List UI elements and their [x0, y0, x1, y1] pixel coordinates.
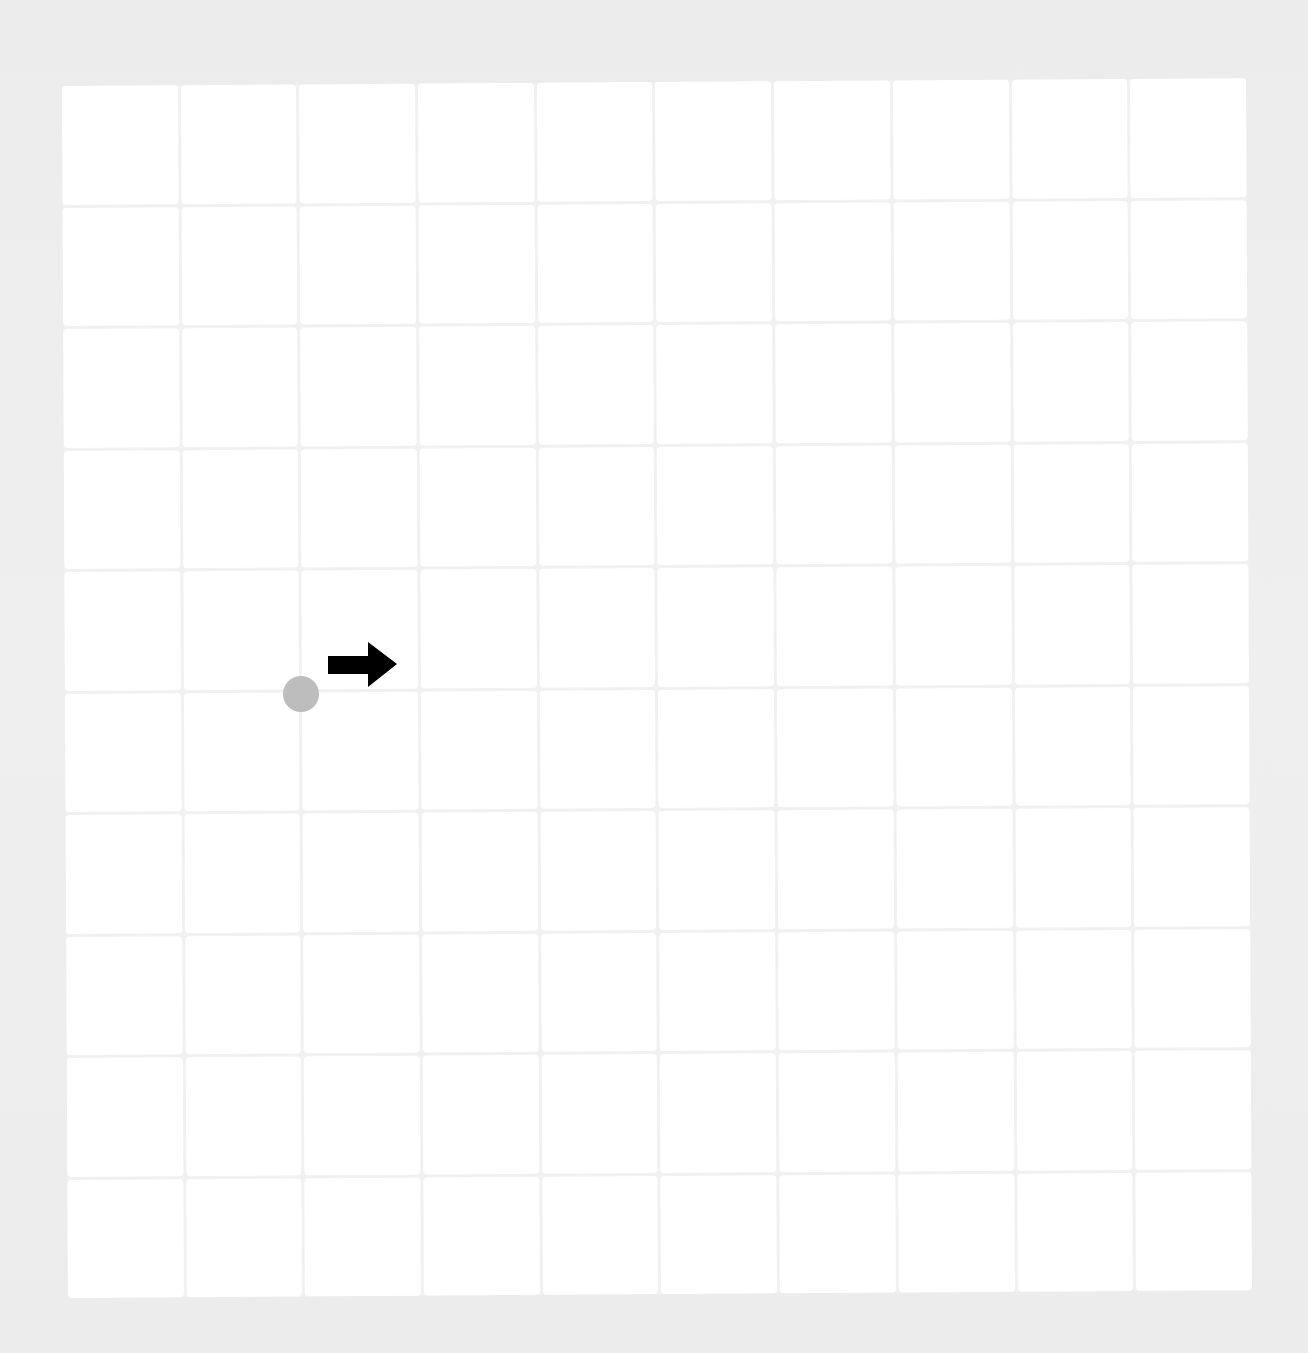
board-cell[interactable]	[777, 688, 893, 807]
board-cell[interactable]	[778, 809, 894, 928]
board-cell[interactable]	[896, 687, 1012, 806]
board-cell[interactable]	[1135, 1050, 1251, 1169]
board-cell[interactable]	[1015, 686, 1131, 805]
board-cell[interactable]	[1134, 929, 1250, 1048]
board-cell[interactable]	[895, 444, 1011, 563]
board-cell[interactable]	[542, 1054, 658, 1173]
board-cell[interactable]	[186, 1178, 302, 1297]
board-cell[interactable]	[184, 813, 300, 932]
board-cell[interactable]	[893, 80, 1009, 199]
board-cell[interactable]	[423, 1176, 539, 1295]
board-cell[interactable]	[778, 931, 894, 1050]
board-cell[interactable]	[62, 85, 178, 204]
board-cell[interactable]	[893, 201, 1009, 320]
player-piece[interactable]	[283, 676, 319, 712]
board-cell[interactable]	[896, 809, 1012, 928]
board-cell[interactable]	[422, 812, 538, 931]
board-cell[interactable]	[419, 204, 535, 323]
board-cell[interactable]	[1131, 321, 1247, 440]
board-cell[interactable]	[1133, 686, 1249, 805]
board-cell[interactable]	[655, 81, 771, 200]
board-cell[interactable]	[1132, 443, 1248, 562]
board-cell[interactable]	[661, 1175, 777, 1294]
board-cell[interactable]	[658, 567, 774, 686]
board-cell[interactable]	[1015, 808, 1131, 927]
board-cell[interactable]	[418, 83, 534, 202]
board-cell[interactable]	[66, 814, 182, 933]
board-cell[interactable]	[776, 445, 892, 564]
board-cell[interactable]	[63, 328, 179, 447]
board-cell[interactable]	[185, 1056, 301, 1175]
board-cell[interactable]	[301, 327, 417, 446]
board-cell[interactable]	[537, 204, 653, 323]
board-cell[interactable]	[779, 1052, 895, 1171]
board-cell[interactable]	[540, 690, 656, 809]
board-cell[interactable]	[63, 207, 179, 326]
board-cell[interactable]	[304, 934, 420, 1053]
board-cell[interactable]	[774, 81, 890, 200]
board-cell[interactable]	[423, 1055, 539, 1174]
board-cell[interactable]	[660, 932, 776, 1051]
board-cell[interactable]	[1134, 807, 1250, 926]
board-cell[interactable]	[1016, 929, 1132, 1048]
board-cell[interactable]	[1012, 200, 1128, 319]
board-cell[interactable]	[898, 1173, 1014, 1292]
board-cell[interactable]	[775, 324, 891, 443]
board-cell[interactable]	[182, 327, 298, 446]
board-cell[interactable]	[419, 326, 535, 445]
board-cell[interactable]	[420, 569, 536, 688]
board-cell[interactable]	[67, 1057, 183, 1176]
board-cell[interactable]	[420, 447, 536, 566]
board-cell[interactable]	[304, 1056, 420, 1175]
board-cell[interactable]	[1013, 322, 1129, 441]
board-cell[interactable]	[539, 447, 655, 566]
board-cell[interactable]	[184, 692, 300, 811]
board-cell[interactable]	[541, 933, 657, 1052]
board-cell[interactable]	[1131, 200, 1247, 319]
board-cell[interactable]	[660, 1053, 776, 1172]
board-cell[interactable]	[301, 448, 417, 567]
board-cell[interactable]	[898, 1052, 1014, 1171]
board-cell[interactable]	[659, 810, 775, 929]
board-cell[interactable]	[895, 566, 1011, 685]
board-cell[interactable]	[537, 82, 653, 201]
board-cell[interactable]	[305, 1177, 421, 1296]
board-cell[interactable]	[658, 689, 774, 808]
board-cell[interactable]	[1012, 79, 1128, 198]
board-cell[interactable]	[539, 568, 655, 687]
board-cell[interactable]	[656, 203, 772, 322]
board-cell[interactable]	[303, 813, 419, 932]
board-cell[interactable]	[1013, 443, 1129, 562]
board-cell[interactable]	[302, 691, 418, 810]
board-cell[interactable]	[300, 205, 416, 324]
board-cell[interactable]	[67, 1179, 183, 1298]
board-cell[interactable]	[182, 449, 298, 568]
board-cell[interactable]	[777, 566, 893, 685]
board-cell[interactable]	[65, 693, 181, 812]
board-cell[interactable]	[64, 571, 180, 690]
board-cell[interactable]	[1130, 78, 1246, 197]
board-cell[interactable]	[66, 936, 182, 1055]
board-cell[interactable]	[181, 206, 297, 325]
board-cell[interactable]	[540, 811, 656, 930]
board-cell[interactable]	[780, 1174, 896, 1293]
board-cell[interactable]	[897, 930, 1013, 1049]
board-cell[interactable]	[657, 324, 773, 443]
board-cell[interactable]	[1133, 564, 1249, 683]
board-cell[interactable]	[181, 84, 297, 203]
board-cell[interactable]	[421, 690, 537, 809]
board-cell[interactable]	[183, 570, 299, 689]
game-board[interactable]	[62, 78, 1252, 1298]
board-cell[interactable]	[1014, 565, 1130, 684]
board-cell[interactable]	[185, 935, 301, 1054]
board-cell[interactable]	[1017, 1172, 1133, 1291]
board-cell[interactable]	[538, 325, 654, 444]
board-cell[interactable]	[894, 323, 1010, 442]
board-cell[interactable]	[542, 1176, 658, 1295]
board-cell[interactable]	[299, 84, 415, 203]
board-cell[interactable]	[775, 202, 891, 321]
board-cell[interactable]	[64, 450, 180, 569]
board-cell[interactable]	[422, 933, 538, 1052]
board-cell[interactable]	[1016, 1051, 1132, 1170]
board-cell[interactable]	[1136, 1172, 1252, 1291]
